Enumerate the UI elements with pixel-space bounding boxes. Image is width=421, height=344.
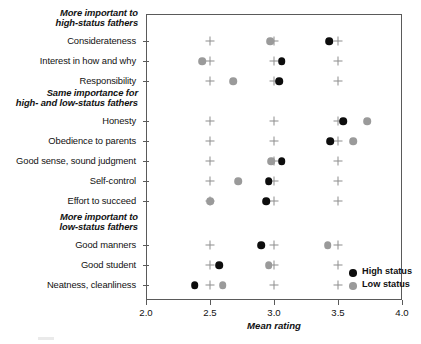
reference-cross-marker <box>206 157 215 166</box>
reference-cross-marker <box>270 197 279 206</box>
data-point-high-status-honesty <box>339 117 347 125</box>
x-tick-label-3.5: 3.5 <box>331 307 344 318</box>
reference-cross-marker <box>334 137 343 146</box>
x-tick-2.0 <box>146 300 147 305</box>
category-label-good-sense-sound-judgment: Good sense, sound judgment <box>0 156 136 166</box>
legend-label-high-status: High status <box>362 266 412 276</box>
data-point-low-status-good-sense-sound-judgment <box>268 157 276 165</box>
data-point-high-status-interest-in-how-and-why <box>278 57 286 65</box>
category-label-responsibility: Responsibility <box>0 76 136 86</box>
reference-cross-marker <box>334 37 343 46</box>
scatter-chart: More important tohigh-status fathersSame… <box>0 0 421 344</box>
category-label-obedience-to-parents: Obedience to parents <box>0 136 136 146</box>
x-tick-label-2.0: 2.0 <box>139 307 152 318</box>
reference-cross-marker <box>206 37 215 46</box>
reference-cross-marker <box>334 261 343 270</box>
reference-cross-marker <box>334 241 343 250</box>
group-header-more-important-to-high-status-fathers: More important tohigh-status fathers <box>0 8 138 28</box>
data-point-high-status-effort-to-succeed <box>263 197 271 205</box>
x-tick-label-4.0: 4.0 <box>395 307 408 318</box>
x-tick-label-2.5: 2.5 <box>203 307 216 318</box>
data-point-low-status-considerateness <box>266 37 274 45</box>
low-status-dot-icon <box>349 282 357 290</box>
data-point-low-status-obedience-to-parents <box>350 137 358 145</box>
y-tick-effort-to-succeed <box>143 201 149 202</box>
group-header-line-2: low-status fathers <box>0 222 138 232</box>
y-tick-good-manners <box>143 245 149 246</box>
reference-cross-marker <box>334 157 343 166</box>
high-status-dot-icon <box>349 269 357 277</box>
data-point-low-status-self-control <box>234 177 242 185</box>
x-tick-label-3.0: 3.0 <box>267 307 280 318</box>
reference-cross-marker <box>270 241 279 250</box>
reference-cross-marker <box>334 77 343 86</box>
legend-label-low-status: Low status <box>362 279 410 289</box>
data-point-high-status-self-control <box>265 177 273 185</box>
y-tick-responsibility <box>143 81 149 82</box>
y-tick-honesty <box>143 121 149 122</box>
category-label-self-control: Self-control <box>0 176 136 186</box>
group-header-same-importance-for-high-and-low-status-fathers: Same importance forhigh- and low-status … <box>0 88 138 108</box>
y-tick-self-control <box>143 181 149 182</box>
category-label-effort-to-succeed: Effort to succeed <box>0 196 136 206</box>
reference-cross-marker <box>206 117 215 126</box>
category-label-considerateness: Considerateness <box>0 36 136 46</box>
category-label-interest-in-how-and-why: Interest in how and why <box>0 56 136 66</box>
data-point-high-status-good-manners <box>257 241 265 249</box>
data-point-low-status-good-student <box>265 261 273 269</box>
x-tick-3.0 <box>274 300 275 305</box>
data-point-high-status-considerateness <box>325 37 333 45</box>
data-point-low-status-effort-to-succeed <box>206 197 214 205</box>
data-point-high-status-good-student <box>215 261 223 269</box>
y-tick-good-sense-sound-judgment <box>143 161 149 162</box>
y-tick-interest-in-how-and-why <box>143 61 149 62</box>
reference-cross-marker <box>270 117 279 126</box>
x-axis-title: Mean rating <box>247 320 301 331</box>
y-tick-obedience-to-parents <box>143 141 149 142</box>
data-point-low-status-neatness-cleanliness <box>219 281 227 289</box>
reference-cross-marker <box>334 281 343 290</box>
x-tick-4.0 <box>402 300 403 305</box>
data-point-high-status-responsibility <box>275 77 283 85</box>
scan-artifact <box>38 337 54 340</box>
reference-cross-marker <box>334 57 343 66</box>
data-point-low-status-interest-in-how-and-why <box>199 57 207 65</box>
reference-cross-marker <box>206 261 215 270</box>
y-tick-good-student <box>143 265 149 266</box>
reference-cross-marker <box>334 197 343 206</box>
group-header-line-2: high-status fathers <box>0 18 138 28</box>
reference-cross-marker <box>270 281 279 290</box>
reference-cross-marker <box>206 177 215 186</box>
category-label-honesty: Honesty <box>0 116 136 126</box>
reference-cross-marker <box>206 137 215 146</box>
x-tick-2.5 <box>210 300 211 305</box>
reference-cross-marker <box>206 241 215 250</box>
reference-cross-marker <box>334 177 343 186</box>
data-point-high-status-neatness-cleanliness <box>191 281 199 289</box>
reference-cross-marker <box>270 137 279 146</box>
reference-cross-marker <box>206 57 215 66</box>
x-tick-3.5 <box>338 300 339 305</box>
data-point-high-status-good-sense-sound-judgment <box>278 157 286 165</box>
category-label-good-student: Good student <box>0 260 136 270</box>
group-header-more-important-to-low-status-fathers: More important tolow-status fathers <box>0 212 138 232</box>
data-point-low-status-good-manners <box>324 241 332 249</box>
reference-cross-marker <box>206 281 215 290</box>
data-point-high-status-obedience-to-parents <box>327 137 335 145</box>
category-label-good-manners: Good manners <box>0 240 136 250</box>
y-tick-considerateness <box>143 41 149 42</box>
data-point-low-status-responsibility <box>229 77 237 85</box>
data-point-low-status-honesty <box>364 117 372 125</box>
y-tick-neatness-cleanliness <box>143 285 149 286</box>
reference-cross-marker <box>206 77 215 86</box>
category-label-neatness-cleanliness: Neatness, cleanliness <box>0 280 136 290</box>
group-header-line-2: high- and low-status fathers <box>0 98 138 108</box>
